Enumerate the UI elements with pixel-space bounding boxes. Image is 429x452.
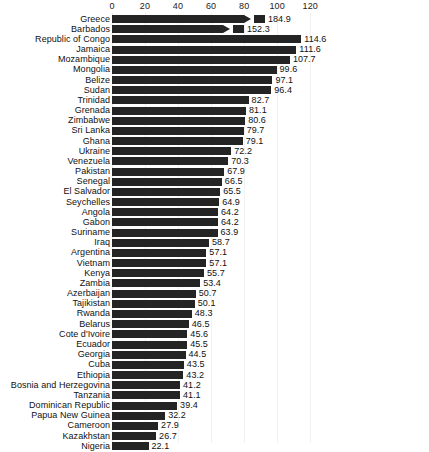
value-label: 57.1 (209, 258, 227, 269)
bar (112, 76, 272, 84)
value-label: 46.5 (192, 319, 210, 330)
axis-break-end-block (233, 25, 244, 33)
bar-row: Dominican Republic39.4 (0, 401, 429, 411)
bar (112, 381, 180, 389)
bar-row: Cameroon27.9 (0, 421, 429, 431)
category-label: El Salvador (63, 186, 110, 197)
category-label: Suriname (71, 227, 110, 238)
category-label: Ethiopia (77, 370, 110, 381)
bar-row: Belize97.1 (0, 75, 429, 85)
category-label: Kenya (84, 268, 110, 279)
value-label: 65.5 (223, 186, 241, 197)
value-label: 43.2 (186, 370, 204, 381)
bar-row: Greece184.9 (0, 14, 429, 24)
bar-row: Kenya55.7 (0, 268, 429, 278)
category-label: Seychelles (66, 197, 110, 208)
category-label: Vietnam (77, 258, 110, 269)
bar (112, 432, 156, 440)
bar-row: Barbados152.3 (0, 24, 429, 34)
category-label: Belize (85, 75, 110, 86)
bar (112, 188, 220, 196)
category-label: Trinidad (77, 95, 110, 106)
bar (112, 147, 231, 155)
bar-chart: 020406080100120 Greece184.9Barbados152.3… (0, 0, 429, 452)
category-label: Sudan (84, 85, 110, 96)
value-label: 67.9 (227, 166, 245, 177)
category-label: Belarus (79, 319, 110, 330)
bar (112, 341, 187, 349)
value-label: 96.4 (274, 85, 292, 96)
category-label: Pakistan (75, 166, 110, 177)
bar (112, 15, 244, 23)
category-label: Mozambique (58, 54, 110, 65)
bar-row: Ecuador45.5 (0, 340, 429, 350)
category-label: Rwanda (77, 308, 110, 319)
bar (112, 422, 158, 430)
value-label: 57.1 (209, 247, 227, 258)
category-label: Ghana (83, 136, 110, 147)
value-label: 152.3 (247, 24, 270, 35)
bar-row: Mozambique107.7 (0, 55, 429, 65)
bar-row: Kazakhstan26.7 (0, 431, 429, 441)
bar (112, 229, 218, 237)
category-label: Barbados (71, 24, 110, 35)
category-label: Tanzania (74, 390, 110, 401)
bar-row: Nigeria22.1 (0, 441, 429, 451)
bar-row: Bosnia and Herzegovina41.2 (0, 380, 429, 390)
bar-row: Angola64.2 (0, 207, 429, 217)
value-label: 82.7 (252, 95, 270, 106)
category-label: Zimbabwe (68, 115, 110, 126)
bar-row: Grenada81.1 (0, 106, 429, 116)
value-label: 64.2 (221, 217, 239, 228)
bar (112, 279, 200, 287)
value-label: 48.3 (195, 308, 213, 319)
value-label: 66.5 (225, 176, 243, 187)
x-tick-label: 120 (295, 1, 325, 12)
bar (112, 371, 183, 379)
category-label: Ecuador (76, 339, 110, 350)
bar (112, 117, 245, 125)
bar (112, 391, 180, 399)
value-label: 97.1 (275, 75, 293, 86)
bar-row: Rwanda48.3 (0, 309, 429, 319)
bar-row: Tanzania41.1 (0, 390, 429, 400)
value-label: 64.9 (222, 197, 240, 208)
bar-row: Tajikistan50.1 (0, 299, 429, 309)
bar-row: Belarus46.5 (0, 319, 429, 329)
bar (112, 168, 224, 176)
category-label: Gabon (83, 217, 110, 228)
bar-row: Trinidad82.7 (0, 95, 429, 105)
bar-row: Sri Lanka79.7 (0, 126, 429, 136)
value-label: 27.9 (161, 420, 179, 431)
bar (112, 137, 243, 145)
bar (112, 86, 271, 94)
category-label: Sri Lanka (72, 125, 110, 136)
bar (112, 107, 246, 115)
bar (112, 96, 249, 104)
category-label: Papua New Guinea (31, 410, 110, 421)
value-label: 41.2 (183, 380, 201, 391)
bar (112, 361, 184, 369)
category-label: Cameroon (68, 420, 110, 431)
bar (112, 56, 290, 64)
bar-row: Gabon64.2 (0, 217, 429, 227)
bar-row: Seychelles64.9 (0, 197, 429, 207)
category-label: Mongolia (73, 64, 110, 75)
bar-row: Vietnam57.1 (0, 258, 429, 268)
bar (112, 239, 209, 247)
category-label: Venezuela (68, 156, 111, 167)
value-label: 45.6 (190, 329, 208, 340)
bar (112, 66, 277, 74)
category-label: Cote d'Ivoire (59, 329, 110, 340)
bar (112, 269, 204, 277)
value-label: 41.1 (183, 390, 201, 401)
x-tick-label: 20 (130, 1, 160, 12)
bar-row: Zimbabwe80.6 (0, 116, 429, 126)
bar (112, 320, 189, 328)
category-label: Dominican Republic (29, 400, 110, 411)
bar-row: Cote d'Ivoire45.6 (0, 329, 429, 339)
bar (112, 290, 196, 298)
value-label: 80.6 (248, 115, 266, 126)
bar (112, 46, 296, 54)
value-label: 79.1 (246, 136, 264, 147)
